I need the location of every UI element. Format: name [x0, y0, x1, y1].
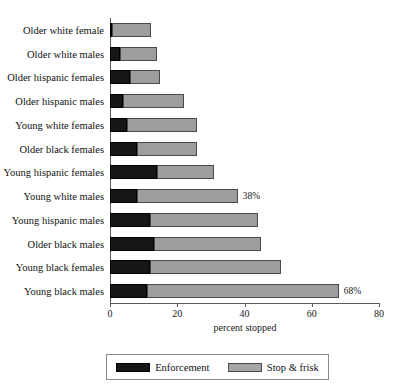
category-label: Older white female: [23, 24, 104, 35]
legend-item-stop-and-frisk: Stop & frisk: [228, 362, 319, 373]
x-tick: [379, 303, 380, 307]
category-label: Young hispanic males: [12, 214, 104, 225]
legend: Enforcement Stop & frisk: [106, 354, 329, 380]
x-tick: [177, 303, 178, 307]
bar-segment-stop-and-frisk: [123, 94, 184, 108]
bar-segment-enforcement: [110, 118, 127, 132]
bar-row: Young white males38%: [0, 184, 401, 208]
category-label: Young white males: [23, 191, 104, 202]
category-label: Older black males: [28, 238, 104, 249]
bar-row: Older black females: [0, 137, 401, 161]
stacked-bar: [110, 70, 160, 84]
bar-row: Young black males68%: [0, 279, 401, 303]
bar-segment-stop-and-frisk: [112, 23, 151, 37]
bar-segment-stop-and-frisk: [157, 165, 214, 179]
bar-row: Older hispanic males: [0, 89, 401, 113]
category-label: Older white males: [27, 48, 104, 59]
bar-segment-stop-and-frisk: [137, 189, 238, 203]
stacked-bar: [110, 237, 261, 251]
category-label: Young black males: [24, 286, 104, 297]
bar-row: Young black females: [0, 256, 401, 280]
bar-segment-stop-and-frisk: [150, 213, 258, 227]
x-axis-title: percent stopped: [110, 322, 380, 333]
bar-segment-enforcement: [110, 260, 150, 274]
stacked-bar: [110, 47, 157, 61]
bar-segment-enforcement: [110, 94, 123, 108]
stacked-bar: [110, 23, 151, 37]
stacked-bar-chart: Older white femaleOlder white malesOlder…: [0, 0, 401, 388]
bar-segment-stop-and-frisk: [130, 70, 160, 84]
legend-label-stop-and-frisk: Stop & frisk: [267, 362, 319, 373]
category-label: Young hispanic females: [4, 167, 104, 178]
stacked-bar: [110, 284, 339, 298]
bar-row: Older black males: [0, 232, 401, 256]
stacked-bar: [110, 189, 238, 203]
x-tick-label: 40: [225, 308, 265, 319]
bar-segment-stop-and-frisk: [147, 284, 339, 298]
category-label: Young white females: [15, 119, 104, 130]
legend-item-enforcement: Enforcement: [116, 362, 209, 373]
bar-row: Older white female: [0, 18, 401, 42]
stacked-bar: [110, 213, 258, 227]
bar-segment-stop-and-frisk: [120, 47, 157, 61]
bar-row: Young hispanic males: [0, 208, 401, 232]
bar-segment-enforcement: [110, 70, 130, 84]
x-tick-label: 0: [90, 308, 130, 319]
bar-row: Young white females: [0, 113, 401, 137]
bar-segment-enforcement: [110, 165, 157, 179]
stacked-bar: [110, 118, 197, 132]
category-label: Young black females: [16, 262, 104, 273]
x-tick-label: 20: [157, 308, 197, 319]
category-label: Older hispanic males: [15, 96, 104, 107]
bar-segment-enforcement: [110, 142, 137, 156]
stop-and-frisk-swatch-icon: [228, 363, 262, 372]
bar-segment-enforcement: [110, 189, 137, 203]
x-tick: [245, 303, 246, 307]
bar-segment-stop-and-frisk: [137, 142, 198, 156]
bar-row: Young hispanic females: [0, 161, 401, 185]
bar-row: Older white males: [0, 42, 401, 66]
stacked-bar: [110, 165, 214, 179]
bar-segment-enforcement: [110, 47, 120, 61]
bar-data-label: 68%: [344, 286, 361, 296]
bar-segment-enforcement: [110, 284, 147, 298]
bar-segment-stop-and-frisk: [127, 118, 198, 132]
bar-segment-enforcement: [110, 213, 150, 227]
bar-segment-stop-and-frisk: [154, 237, 262, 251]
legend-label-enforcement: Enforcement: [155, 362, 209, 373]
category-label: Older black females: [19, 143, 104, 154]
x-tick: [312, 303, 313, 307]
enforcement-swatch-icon: [116, 363, 150, 372]
category-label: Older hispanic females: [7, 72, 104, 83]
stacked-bar: [110, 142, 197, 156]
stacked-bar: [110, 260, 281, 274]
stacked-bar: [110, 94, 184, 108]
bar-segment-enforcement: [110, 237, 154, 251]
bar-row: Older hispanic females: [0, 66, 401, 90]
x-tick-label: 60: [292, 308, 332, 319]
x-tick-label: 80: [359, 308, 399, 319]
x-tick: [110, 303, 111, 307]
bar-data-label: 38%: [243, 191, 260, 201]
bar-segment-stop-and-frisk: [150, 260, 281, 274]
